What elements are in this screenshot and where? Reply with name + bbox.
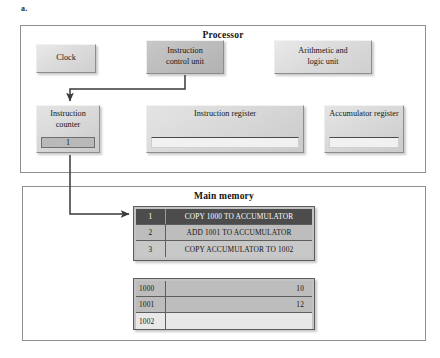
figure-diagram: a. Processor Clock Instruction control u… — [0, 0, 440, 358]
instruction-control-unit-box: Instruction control unit — [146, 40, 224, 74]
instruction-register-label-line-1: Instruction — [194, 109, 229, 118]
data-row-address: 1000 — [136, 281, 166, 296]
icu-label-line-2: control unit — [166, 57, 204, 68]
instruction-counter-caption: Instruction counter — [41, 109, 95, 130]
table-row: 1002 — [136, 313, 312, 329]
arithmetic-logic-unit-box: Arithmetic and logic unit — [274, 40, 372, 74]
program-row-address: 2 — [136, 225, 166, 240]
program-row-instruction: COPY ACCUMULATOR TO 1002 — [166, 241, 312, 257]
program-row-instruction: COPY 1000 TO ACCUMULATOR — [166, 209, 312, 224]
table-row: 2 ADD 1001 TO ACCUMULATOR — [136, 225, 312, 241]
instruction-counter-box: Instruction counter 1 — [36, 105, 100, 153]
alu-label-line-1: Arithmetic and — [298, 46, 347, 57]
accumulator-register-label-line-1: Accumulator — [329, 109, 372, 118]
table-row: 1001 12 — [136, 297, 312, 313]
accumulator-register-label-line-2: register — [374, 109, 399, 118]
alu-label-line-2: logic unit — [307, 57, 338, 68]
instruction-counter-label-line-2: counter — [56, 120, 81, 129]
clock-box: Clock — [36, 44, 96, 73]
instruction-register-label-line-2: register — [231, 109, 256, 118]
data-row-address: 1001 — [136, 297, 166, 312]
figure-label: a. — [21, 4, 27, 13]
table-row: 3 COPY ACCUMULATOR TO 1002 — [136, 241, 312, 257]
instruction-register-caption: Instruction register — [151, 109, 299, 120]
table-row: 1 COPY 1000 TO ACCUMULATOR — [136, 209, 312, 225]
processor-title: Processor — [21, 30, 425, 40]
icu-label-line-1: Instruction — [167, 46, 202, 57]
data-row-value: 12 — [166, 297, 312, 312]
data-row-value — [166, 313, 312, 329]
instruction-counter-value: 1 — [41, 137, 95, 148]
instruction-register-value — [151, 137, 299, 148]
program-row-instruction: ADD 1001 TO ACCUMULATOR — [166, 225, 312, 240]
instruction-counter-label-line-1: Instruction — [50, 109, 85, 118]
accumulator-register-caption: Accumulator register — [329, 109, 399, 120]
main-memory-title: Main memory — [23, 191, 425, 201]
data-row-address: 1002 — [136, 313, 166, 329]
program-row-address: 1 — [136, 209, 166, 224]
data-memory-table: 1000 10 1001 12 1002 — [133, 278, 315, 330]
program-memory-table: 1 COPY 1000 TO ACCUMULATOR 2 ADD 1001 TO… — [133, 206, 315, 261]
accumulator-register-value — [329, 137, 399, 148]
clock-label-line-1: Clock — [56, 53, 76, 64]
accumulator-register-box: Accumulator register — [324, 105, 404, 153]
data-row-value: 10 — [166, 281, 312, 296]
table-row: 1000 10 — [136, 281, 312, 297]
program-row-address: 3 — [136, 241, 166, 257]
instruction-register-box: Instruction register — [146, 105, 304, 153]
